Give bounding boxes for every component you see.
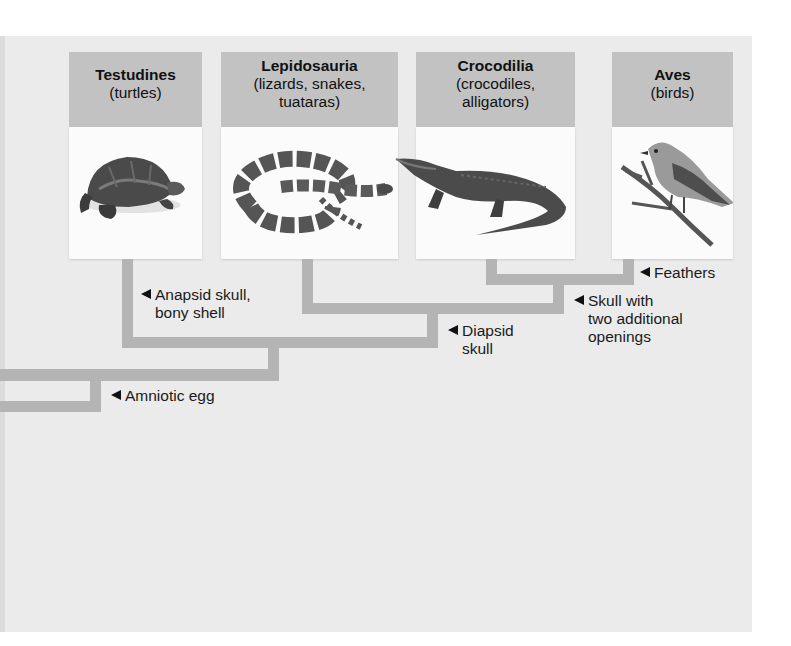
trait-label: Anapsid skull,bony shell: [155, 286, 251, 322]
alligator-icon: [416, 127, 575, 259]
trait-anapsid-skull: Anapsid skull,bony shell: [141, 286, 251, 322]
trait-label-line: skull: [462, 340, 514, 358]
trait-label: Feathers: [654, 264, 715, 282]
left-triangle-marker-icon: [640, 267, 650, 277]
taxon-header: Aves (birds): [612, 52, 733, 127]
left-triangle-marker-icon: [448, 325, 458, 335]
taxon-common-name: (turtles): [69, 84, 202, 102]
taxon-header: Crocodilia (crocodiles, alligators): [416, 52, 575, 127]
trait-diapsid-skull: Diapsidskull: [448, 322, 514, 358]
left-triangle-marker-icon: [574, 295, 584, 305]
taxon-common-name: (crocodiles,: [416, 75, 575, 93]
trait-label-line: openings: [588, 328, 683, 346]
trait-label-line: bony shell: [155, 304, 251, 322]
trait-label-line: Diapsid: [462, 322, 514, 340]
taxon-name: Crocodilia: [416, 57, 575, 75]
snake-illustration: [221, 127, 398, 259]
trait-skull-two-openings: Skull withtwo additionalopenings: [574, 292, 683, 346]
left-triangle-marker-icon: [111, 390, 121, 400]
taxon-header: Testudines (turtles): [69, 52, 202, 127]
taxon-name: Lepidosauria: [221, 57, 398, 75]
branch-testudines-stem: [122, 259, 133, 348]
trait-label-line: Anapsid skull,: [155, 286, 251, 304]
taxon-common-name-cont: alligators): [416, 93, 575, 111]
snake-icon: [221, 127, 398, 259]
trait-label-line: Skull with: [588, 292, 683, 310]
branch-amniote-lower: [0, 401, 101, 412]
trait-feathers: Feathers: [640, 264, 715, 282]
branch-amniote-upper: [0, 369, 279, 381]
trait-label-line: two additional: [588, 310, 683, 328]
taxon-header: Lepidosauria (lizards, snakes, tuataras): [221, 52, 398, 127]
branch-reptile-join: [122, 337, 438, 348]
turtle-icon: [69, 127, 202, 259]
trait-label: Amniotic egg: [125, 387, 215, 405]
page-edge-shadow: [0, 36, 5, 632]
trait-amniotic-egg: Amniotic egg: [111, 387, 215, 405]
taxon-common-name-cont: tuataras): [221, 93, 398, 111]
trait-label: Diapsidskull: [462, 322, 514, 358]
alligator-illustration: [416, 127, 575, 259]
taxon-common-name: (lizards, snakes,: [221, 75, 398, 93]
taxon-name: Testudines: [69, 66, 202, 84]
taxon-common-name: (birds): [612, 84, 733, 102]
taxon-name: Aves: [612, 66, 733, 84]
bird-icon: [612, 127, 733, 259]
bird-illustration: [612, 127, 733, 259]
trait-label: Skull withtwo additionalopenings: [588, 292, 683, 346]
left-triangle-marker-icon: [141, 289, 151, 299]
turtle-illustration: [69, 127, 202, 259]
